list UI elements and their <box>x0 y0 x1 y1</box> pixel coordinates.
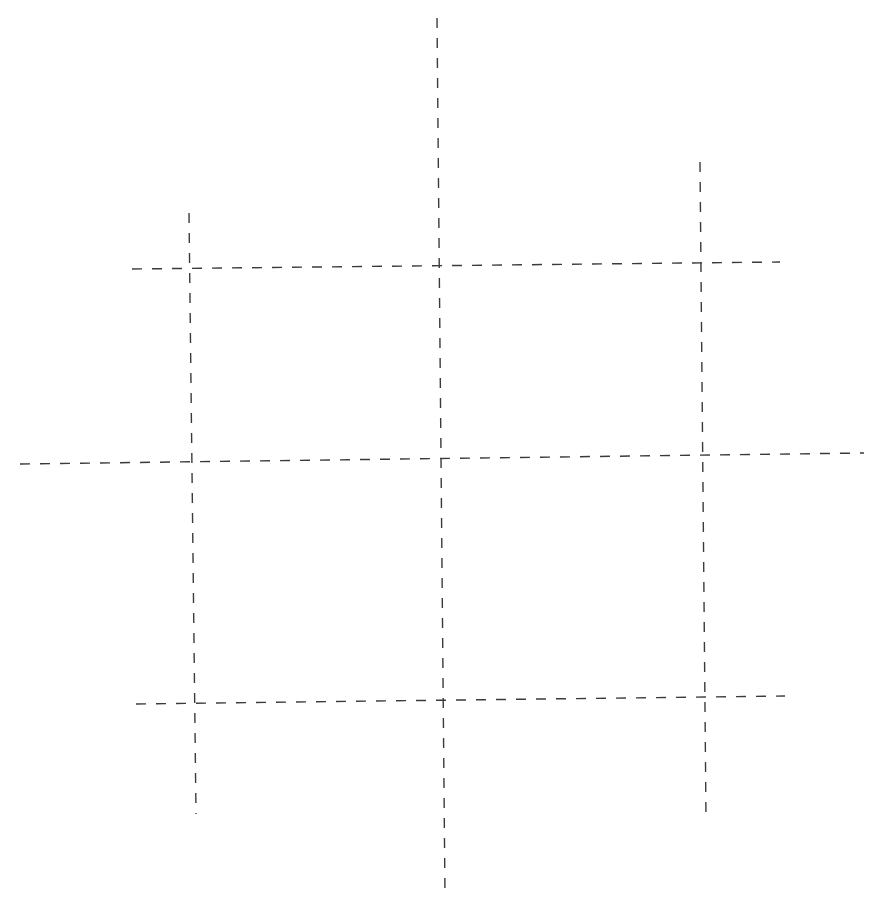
cell-r2-c0[interactable] <box>196 702 444 814</box>
cell-r1-c0[interactable] <box>194 462 442 700</box>
cell-r1-c1[interactable] <box>443 456 705 698</box>
cell-r2-c1[interactable] <box>445 698 705 816</box>
cell-r0-c0[interactable] <box>192 266 440 460</box>
cell-r0-c1[interactable] <box>441 263 703 456</box>
